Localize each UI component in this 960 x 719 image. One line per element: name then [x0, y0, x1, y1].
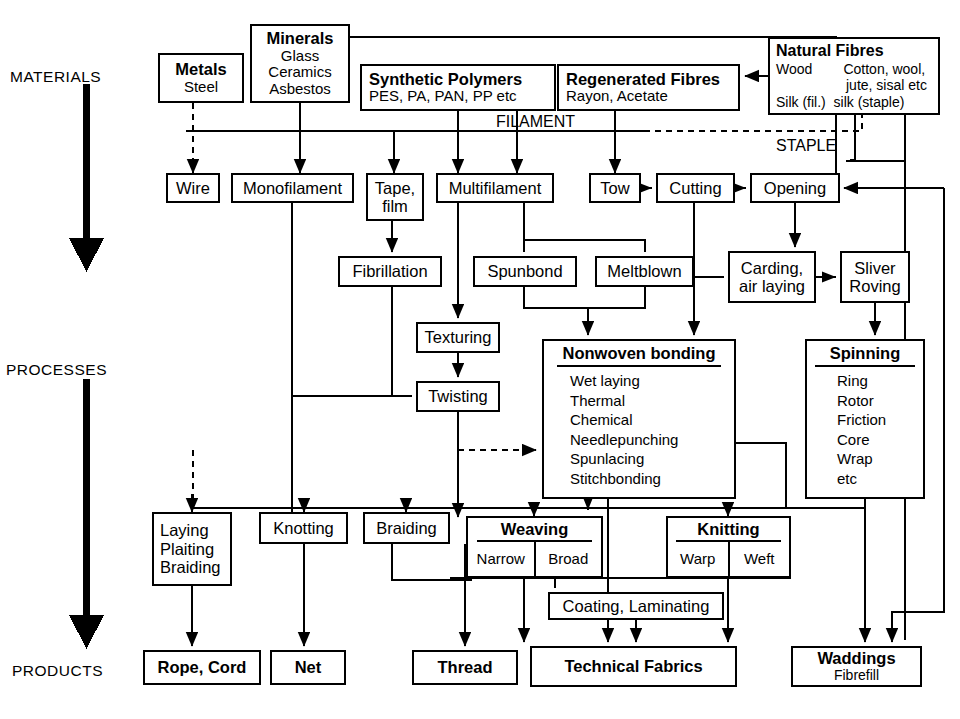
- material-box-synthetic-polymers[interactable]: Synthetic Polymers PES, PA, PAN, PP etc: [360, 64, 556, 111]
- carding-line-1: Carding,: [741, 259, 803, 277]
- monofilament-label: Monofilament: [243, 179, 342, 197]
- nonwoven-item: Wet laying: [570, 371, 734, 391]
- laying-line-3: Braiding: [160, 558, 221, 576]
- waddings-sub-label: Fibrefill: [834, 668, 879, 684]
- waddings-label: Waddings: [817, 649, 895, 667]
- stage-label-products: PRODUCTS: [12, 662, 103, 680]
- carding-line-2: air laying: [739, 277, 805, 295]
- process-box-knotting[interactable]: Knotting: [259, 512, 348, 544]
- process-box-twisting[interactable]: Twisting: [416, 381, 500, 412]
- weaving-cell-broad[interactable]: Broad: [534, 542, 602, 576]
- tow-label: Tow: [600, 179, 629, 197]
- knitting-cell-warp[interactable]: Warp: [668, 542, 728, 576]
- nonwoven-bonding-title: Nonwoven bonding: [544, 344, 734, 364]
- process-box-fibrillation[interactable]: Fibrillation: [338, 256, 442, 287]
- process-box-weaving[interactable]: Weaving Narrow Broad: [466, 516, 603, 578]
- spinning-item: Ring: [837, 371, 923, 391]
- spinning-divider: [815, 365, 915, 367]
- process-box-meltblown[interactable]: Meltblown: [595, 256, 694, 287]
- sliver-roving-line-1: Sliver: [854, 259, 895, 277]
- metals-title: Metals: [175, 60, 226, 78]
- knotting-label: Knotting: [273, 519, 334, 537]
- process-box-tape-film[interactable]: Tape, film: [366, 173, 424, 221]
- nonwoven-item: Chemical: [570, 410, 734, 430]
- process-box-multifilament[interactable]: Multifilament: [436, 173, 554, 203]
- staple-label: STAPLE: [776, 137, 836, 155]
- rope-cord-label: Rope, Cord: [158, 658, 247, 676]
- thread-label: Thread: [437, 658, 492, 676]
- knitting-cell-weft[interactable]: Weft: [728, 542, 790, 576]
- natural-fibres-title: Natural Fibres: [776, 42, 884, 61]
- process-box-nonwoven-bonding[interactable]: Nonwoven bonding Wet laying Thermal Chem…: [542, 339, 736, 499]
- sliver-roving-line-2: Roving: [849, 277, 900, 295]
- process-box-carding-air-laying[interactable]: Carding, air laying: [728, 251, 816, 303]
- spinning-title: Spinning: [807, 344, 923, 364]
- process-box-texturing[interactable]: Texturing: [416, 322, 500, 353]
- braiding-label: Braiding: [376, 519, 437, 537]
- fibrillation-label: Fibrillation: [352, 262, 427, 280]
- process-box-spinning[interactable]: Spinning Ring Rotor Friction Core Wrap e…: [805, 339, 925, 499]
- process-box-wire[interactable]: Wire: [166, 173, 220, 203]
- cutting-label: Cutting: [669, 179, 721, 197]
- regenerated-fibres-title: Regenerated Fibres: [566, 70, 720, 88]
- stage-label-materials: MATERIALS: [10, 68, 101, 86]
- natural-fibres-line-1: Wood Cotton, wool,: [776, 61, 925, 78]
- process-box-sliver-roving[interactable]: Sliver Roving: [840, 251, 910, 303]
- multifilament-label: Multifilament: [449, 179, 542, 197]
- minerals-line-1: Glass: [281, 48, 319, 65]
- synthetic-polymers-title: Synthetic Polymers: [369, 70, 522, 88]
- tape-film-line-1: Tape,: [375, 179, 415, 197]
- product-box-net[interactable]: Net: [270, 650, 346, 685]
- process-box-knitting[interactable]: Knitting Warp Weft: [666, 516, 791, 578]
- material-box-minerals[interactable]: Minerals Glass Ceramics Asbestos: [250, 24, 350, 103]
- minerals-line-2: Ceramics: [268, 64, 331, 81]
- process-box-tow[interactable]: Tow: [589, 173, 641, 203]
- spunbond-label: Spunbond: [487, 262, 562, 280]
- nonwoven-item: Stitchbonding: [570, 469, 734, 489]
- synthetic-polymers-line-1: PES, PA, PAN, PP etc: [369, 88, 517, 105]
- wire-label: Wire: [176, 179, 210, 197]
- flowchart-canvas: MATERIALS PROCESSES PRODUCTS FILAMENT ST…: [0, 0, 960, 719]
- twisting-label: Twisting: [428, 387, 488, 405]
- texturing-label: Texturing: [425, 328, 492, 346]
- tape-film-line-2: film: [382, 197, 408, 215]
- material-box-regenerated-fibres[interactable]: Regenerated Fibres Rayon, Acetate: [557, 64, 740, 111]
- minerals-line-3: Asbestos: [269, 81, 331, 98]
- material-box-natural-fibres[interactable]: Natural Fibres Wood Cotton, wool, jute, …: [768, 37, 940, 115]
- knitting-title: Knitting: [668, 520, 789, 538]
- metals-line-1: Steel: [184, 79, 218, 96]
- natural-fibres-line-2: jute, sisal etc: [776, 77, 927, 94]
- process-box-laying-plaiting-braiding[interactable]: Laying Plaiting Braiding: [152, 512, 232, 586]
- process-box-braiding[interactable]: Braiding: [363, 512, 450, 544]
- filament-label: FILAMENT: [496, 113, 575, 131]
- process-box-cutting[interactable]: Cutting: [656, 173, 735, 203]
- meltblown-label: Meltblown: [607, 262, 681, 280]
- product-box-thread[interactable]: Thread: [412, 650, 518, 685]
- process-box-monofilament[interactable]: Monofilament: [231, 173, 354, 203]
- weaving-title: Weaving: [468, 520, 601, 538]
- weaving-cell-narrow[interactable]: Narrow: [468, 542, 534, 576]
- minerals-title: Minerals: [267, 29, 334, 47]
- product-box-waddings[interactable]: Waddings Fibrefill: [791, 646, 922, 687]
- spinning-item: Core: [837, 430, 923, 450]
- net-label: Net: [295, 658, 322, 676]
- technical-fabrics-label: Technical Fabrics: [564, 657, 702, 675]
- product-box-rope-cord[interactable]: Rope, Cord: [143, 650, 261, 685]
- product-box-technical-fabrics[interactable]: Technical Fabrics: [530, 646, 737, 687]
- material-box-metals[interactable]: Metals Steel: [158, 53, 244, 103]
- laying-line-1: Laying: [160, 521, 209, 539]
- spinning-item: Friction: [837, 410, 923, 430]
- coating-laminating-label: Coating, Laminating: [563, 597, 710, 615]
- laying-line-2: Plaiting: [160, 540, 214, 558]
- opening-label: Opening: [764, 179, 826, 197]
- process-box-opening[interactable]: Opening: [750, 173, 840, 203]
- spinning-item: Wrap: [837, 449, 923, 469]
- nonwoven-item: Spunlacing: [570, 449, 734, 469]
- nonwoven-item: Thermal: [570, 391, 734, 411]
- process-box-coating-laminating[interactable]: Coating, Laminating: [548, 592, 724, 620]
- nonwoven-item: Needlepunching: [570, 430, 734, 450]
- spinning-item: etc: [837, 469, 923, 489]
- process-box-spunbond[interactable]: Spunbond: [473, 256, 577, 287]
- natural-fibres-line-3: Silk (fil.) silk (staple): [776, 94, 904, 111]
- stage-label-processes: PROCESSES: [6, 361, 107, 379]
